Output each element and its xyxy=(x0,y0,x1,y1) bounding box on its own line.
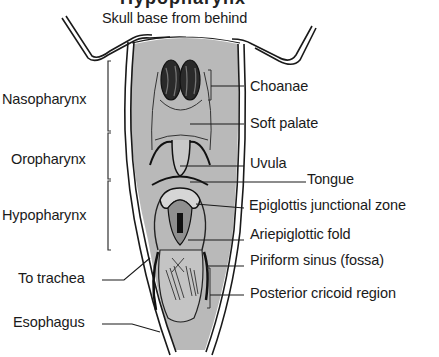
label-epiglottis-junctional-zone: Epiglottis junctional zone xyxy=(249,197,406,214)
pharynx-illustration xyxy=(0,0,439,357)
label-esophagus: Esophagus xyxy=(13,314,85,331)
region-label-hypopharynx: Hypopharynx xyxy=(2,207,86,224)
label-uvula: Uvula xyxy=(250,155,287,172)
label-tongue: Tongue xyxy=(307,171,354,188)
skull-base-caption: Skull base from behind xyxy=(102,10,247,27)
label-posterior-cricoid-region: Posterior cricoid region xyxy=(250,285,396,302)
label-soft-palate: Soft palate xyxy=(250,115,318,132)
region-label-nasopharynx: Nasopharynx xyxy=(2,91,86,108)
label-ariepiglottic-fold: Ariepiglottic fold xyxy=(250,226,351,243)
label-to-trachea: To trachea xyxy=(18,270,85,287)
region-brackets xyxy=(108,61,111,250)
label-choanae: Choanae xyxy=(250,78,308,95)
label-piriform-sinus: Piriform sinus (fossa) xyxy=(250,252,384,269)
pharynx-diagram: Hypopharynx xyxy=(0,0,439,357)
region-label-oropharynx: Oropharynx xyxy=(11,151,86,168)
